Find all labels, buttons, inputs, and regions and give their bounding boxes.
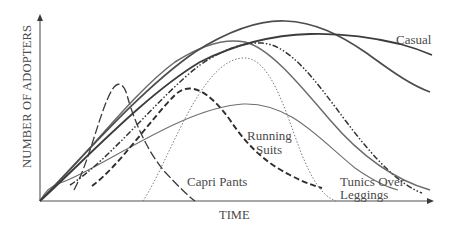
label-casual: Casual: [396, 32, 432, 47]
curve-labels: Casual Running Suits Capri Pants Tunics …: [187, 32, 432, 202]
label-running-suits-line2: Suits: [256, 142, 282, 157]
curve-unlabeled-dash-dot: [70, 43, 422, 193]
adoption-curves-chart: NUMBER OF ADOPTERS TIME Casual Running S…: [0, 0, 465, 226]
label-tunics-line2: Leggings: [340, 187, 388, 202]
x-axis-arrow-icon: [427, 198, 434, 204]
y-axis-label: NUMBER OF ADOPTERS: [20, 25, 34, 168]
label-running-suits-line1: Running: [247, 128, 292, 143]
label-capri-pants: Capri Pants: [187, 174, 247, 189]
y-axis-arrow-icon: [37, 14, 43, 21]
x-axis-label: TIME: [219, 208, 250, 222]
